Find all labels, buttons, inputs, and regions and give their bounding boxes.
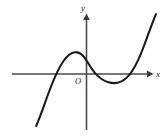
x-axis-label: x	[155, 69, 160, 79]
y-axis-label: y	[80, 3, 85, 13]
figure-root: y x O	[0, 0, 166, 140]
origin-label: O	[75, 76, 81, 86]
y-axis-label-layer: y x O	[0, 0, 166, 140]
